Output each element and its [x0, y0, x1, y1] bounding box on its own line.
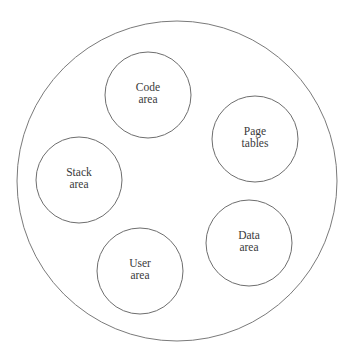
- region-user-area: User area: [97, 228, 183, 314]
- code-area-label-line1: Code: [136, 81, 160, 93]
- user-area-label-line1: User: [129, 257, 151, 269]
- user-area-label-line2: area: [130, 269, 149, 281]
- data-area-label-line2: area: [239, 241, 258, 253]
- data-area-label-line1: Data: [238, 229, 260, 241]
- process-diagram: Code area Page tables Stack area Data ar…: [0, 0, 349, 356]
- stack-area-label-line1: Stack: [66, 166, 92, 178]
- stack-area-label-line2: area: [69, 178, 88, 190]
- region-code-area: Code area: [105, 52, 191, 138]
- region-page-tables: Page tables: [212, 96, 298, 182]
- code-area-label-line2: area: [138, 93, 157, 105]
- region-stack-area: Stack area: [36, 137, 122, 223]
- page-tables-label-line2: tables: [242, 137, 269, 149]
- region-data-area: Data area: [206, 200, 292, 286]
